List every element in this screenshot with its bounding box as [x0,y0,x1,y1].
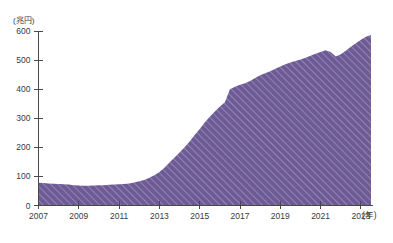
y-tick-label: 100 [16,171,30,181]
y-tick-label: 500 [16,55,30,65]
x-tick-label: 2015 [190,211,209,221]
area-series-path [39,35,371,205]
y-axis: 0100200300400500600 [16,26,43,211]
y-tick-label: 200 [16,142,30,152]
y-tick-label: 300 [16,113,30,123]
x-tick-label: 2013 [150,211,169,221]
y-tick-label: 600 [16,26,30,36]
area-chart-svg: 0100200300400500600 20072009201120132015… [0,0,393,243]
x-tick-label: 2011 [110,211,129,221]
x-tick-label: 2009 [69,211,88,221]
x-tick-label: 2019 [271,211,290,221]
x-tick-label: 2007 [29,211,48,221]
data-area [39,35,371,205]
x-tick-label: 2017 [231,211,250,221]
chart-container: (兆円) 0100200300400500600 200720092011201… [0,0,393,243]
x-tick-label: 2021 [311,211,330,221]
y-tick-label: 400 [16,84,30,94]
y-tick-label: 0 [26,201,31,211]
x-axis-unit-label: (年) [362,210,377,220]
